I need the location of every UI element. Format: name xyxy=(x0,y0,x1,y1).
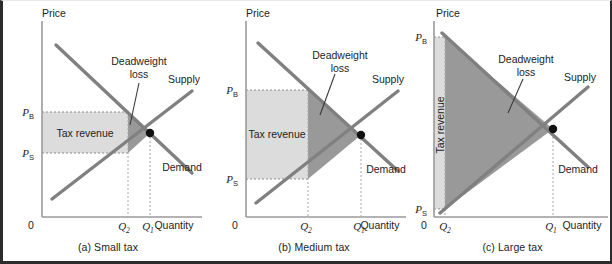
origin-label: 0 xyxy=(232,219,238,231)
tax-revenue-label: Tax revenue xyxy=(56,127,113,139)
deadweight-loss-label-line1: Deadweight xyxy=(111,55,167,67)
panel-medium-tax-caption: (b) Medium tax xyxy=(216,241,412,253)
price-axis-label: Price xyxy=(42,7,66,19)
panel-large-tax: Price Quantity 0 PB PS Q2 Q1 Tax revenue… xyxy=(412,1,612,264)
panel-medium-tax-plot: Price Quantity 0 PB PS Q2 Q1 Tax revenue… xyxy=(216,1,412,241)
quantity-axis-label: Quantity xyxy=(360,219,400,231)
origin-label: 0 xyxy=(28,219,34,231)
deadweight-loss-label-line1: Deadweight xyxy=(498,53,554,65)
supply-label: Supply xyxy=(168,73,201,85)
panel-small-tax: Price Quantity 0 PB PS Q2 Q1 Tax revenue… xyxy=(6,1,210,264)
quantity-axis-label: Quantity xyxy=(562,219,602,231)
panel-small-tax-plot: Price Quantity 0 PB PS Q2 Q1 Tax revenue… xyxy=(6,1,210,241)
quantity-axis-label: Quantity xyxy=(154,219,194,231)
q2-label: Q2 xyxy=(118,220,130,235)
panel-large-tax-plot: Price Quantity 0 PB PS Q2 Q1 Tax revenue… xyxy=(412,1,612,241)
deadweight-loss-region xyxy=(308,90,361,179)
demand-label: Demand xyxy=(366,163,406,175)
origin-label: 0 xyxy=(421,219,427,231)
deadweight-loss-label-line2: loss xyxy=(517,66,536,78)
demand-label: Demand xyxy=(162,161,202,173)
panel-large-tax-caption: (c) Large tax xyxy=(412,241,612,253)
demand-label: Demand xyxy=(558,163,598,175)
equilibrium-point xyxy=(357,131,365,139)
equilibrium-point xyxy=(549,125,557,133)
pb-label: PB xyxy=(414,31,427,46)
pb-label: PB xyxy=(225,84,238,99)
ps-label: PS xyxy=(21,147,34,162)
panel-medium-tax: Price Quantity 0 PB PS Q2 Q1 Tax revenue… xyxy=(216,1,412,264)
q2-label: Q2 xyxy=(439,220,451,235)
deadweight-loss-label-line2: loss xyxy=(331,62,350,74)
supply-label: Supply xyxy=(564,71,597,83)
figure-frame: Price Quantity 0 PB PS Q2 Q1 Tax revenue… xyxy=(0,0,612,264)
q1-label: Q1 xyxy=(142,220,154,235)
tax-revenue-label: Tax revenue xyxy=(248,128,305,140)
q1-label: Q1 xyxy=(545,220,557,235)
supply-label: Supply xyxy=(372,73,405,85)
q2-label: Q2 xyxy=(300,220,312,235)
equilibrium-point xyxy=(146,129,154,137)
price-axis-label: Price xyxy=(436,7,460,19)
panel-small-tax-caption: (a) Small tax xyxy=(6,241,210,253)
pb-label: PB xyxy=(21,106,34,121)
ps-label: PS xyxy=(414,203,427,218)
ps-label: PS xyxy=(225,173,238,188)
tax-revenue-label: Tax revenue xyxy=(434,96,446,153)
deadweight-loss-label-line1: Deadweight xyxy=(312,49,368,61)
price-axis-label: Price xyxy=(246,7,270,19)
deadweight-loss-label-line2: loss xyxy=(130,68,149,80)
